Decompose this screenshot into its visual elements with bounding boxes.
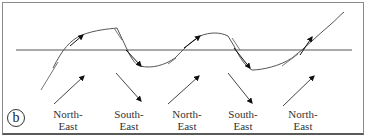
panel-label-badge: b <box>7 109 25 127</box>
wind-label-3: North- East <box>162 108 212 132</box>
wind-arrow-ne-3 <box>283 76 314 106</box>
wind-label-2: South- East <box>104 108 154 132</box>
wind-arrow-se-2 <box>228 73 252 103</box>
tangent-mark <box>282 54 298 66</box>
trajectory-curve <box>53 12 344 70</box>
curve-arrow-se-1 <box>126 50 141 66</box>
curve-arrow-ne-3 <box>300 37 312 55</box>
wind-label-1: North- East <box>43 108 93 132</box>
diagram-frame: b North- East South- East North- East So… <box>0 0 368 140</box>
wind-label-5: North- East <box>278 108 328 132</box>
curve-arrow-se-2 <box>234 48 250 68</box>
wind-arrow-ne-1 <box>54 76 84 104</box>
wind-arrow-se-1 <box>116 73 141 101</box>
tangent-mark <box>41 62 58 90</box>
tangent-mark <box>168 58 176 64</box>
curve-arrow-ne-2 <box>184 36 200 48</box>
wind-label-4: South- East <box>218 108 268 132</box>
wind-arrow-ne-2 <box>168 76 199 104</box>
